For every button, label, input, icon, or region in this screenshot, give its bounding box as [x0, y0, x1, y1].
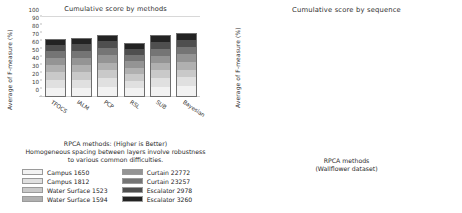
stacked-bar[interactable] — [124, 43, 145, 97]
bar-segment — [98, 87, 117, 96]
x-axis-tick-label: IALM — [76, 99, 90, 112]
bar-slot — [147, 17, 173, 97]
x-axis-tick-label: Bayesian — [182, 99, 206, 118]
legend-swatch — [122, 169, 143, 176]
bar-segment — [46, 72, 65, 80]
bar-segment — [125, 81, 144, 88]
legend-sequences: Campus 1650Campus 1812Water Surface 1523… — [22, 168, 192, 203]
x-label-slot: IALM — [68, 98, 94, 138]
legend-label: Curtain 23257 — [147, 178, 191, 185]
legend-item[interactable]: Escalator 3260 — [122, 195, 193, 203]
y-axis-tick-label: 20 — [32, 73, 39, 79]
bar-segment — [151, 70, 170, 78]
legend-label: Campus 1650 — [47, 169, 89, 176]
bar-segment — [125, 74, 144, 81]
bar-segment — [46, 80, 65, 88]
bar-segment — [177, 77, 196, 86]
x-label-slot: Bayesian — [174, 98, 200, 138]
legend-swatch — [22, 196, 43, 203]
bar-segment — [72, 88, 91, 97]
y-axis-tick-label: 100 — [29, 9, 39, 15]
caption-line-3: to various common difficulties. — [0, 156, 231, 164]
y-axis-label-sequence: Average of F-measure (%) — [234, 27, 241, 108]
bar-segment — [72, 58, 91, 65]
legend-label: Curtain 22772 — [147, 169, 191, 176]
stacked-bar[interactable] — [97, 35, 118, 97]
legend-label: Water Surface 1594 — [47, 196, 108, 203]
bar-slot — [95, 17, 121, 97]
plot-area-methods: 0102030405060708090100 — [42, 17, 200, 97]
bar-segment — [98, 55, 117, 63]
legend-item[interactable]: Curtain 22772 — [122, 168, 193, 176]
legend-column: Campus 1650Campus 1812Water Surface 1523… — [22, 168, 108, 203]
stacked-bar[interactable] — [150, 35, 171, 97]
chart-title-sequence: Cumulative score by sequence — [231, 6, 462, 14]
caption-line-1: RPCA methods — [231, 157, 462, 165]
stacked-bar[interactable] — [176, 33, 197, 97]
caption-line-1: RPCA methods: (Higher is Better) — [0, 140, 231, 148]
y-axis-tick-label: 30 — [32, 65, 39, 71]
bar-segment — [46, 51, 65, 58]
legend-item[interactable]: Escalator 2978 — [122, 186, 193, 194]
x-axis-labels-methods: TFOCSIALMPCPRSLSUBBayesian — [42, 98, 200, 138]
stacked-bar[interactable] — [71, 38, 92, 97]
y-axis-tick-label: 40 — [32, 57, 39, 63]
bar-segment — [151, 42, 170, 49]
legend-swatch — [22, 187, 43, 194]
bar-segment — [46, 65, 65, 72]
y-axis-tick-label: 80 — [32, 25, 39, 31]
bar-segment — [72, 80, 91, 88]
bar-segment — [72, 51, 91, 58]
bar-segment — [46, 88, 65, 96]
legend-item[interactable]: Campus 1650 — [22, 168, 108, 176]
bar-segment — [98, 78, 117, 87]
bar-segment — [151, 56, 170, 63]
legend-swatch — [122, 187, 143, 194]
bar-segment — [125, 88, 144, 96]
chart-panel-methods: Cumulative score by methods Average of F… — [0, 0, 231, 213]
chart-panel-sequence: Cumulative score by sequence Average of … — [231, 0, 462, 213]
x-axis-tick-label: TFOCS — [50, 99, 68, 114]
figure-root: Cumulative score by methods Average of F… — [0, 0, 462, 213]
legend-label: Escalator 2978 — [147, 187, 193, 194]
x-label-slot: PCP — [95, 98, 121, 138]
bar-segment — [72, 44, 91, 51]
y-axis-tick-label: 50 — [32, 49, 39, 55]
x-axis-tick-label: RSL — [129, 99, 141, 110]
y-axis-tick-label: 0 — [36, 89, 39, 95]
legend-label: Escalator 3260 — [147, 196, 193, 203]
bar-slot — [42, 17, 68, 97]
bar-slot — [68, 17, 94, 97]
stacked-bar[interactable] — [45, 39, 66, 97]
legend-item[interactable]: Campus 1812 — [22, 177, 108, 185]
bar-segment — [72, 72, 91, 80]
x-axis-tick-label: PCP — [103, 99, 115, 110]
y-axis-tick-label: 10 — [32, 81, 39, 87]
bar-segment — [125, 68, 144, 75]
x-label-slot: RSL — [121, 98, 147, 138]
y-axis-tick-label: 70 — [32, 33, 39, 39]
y-axis-tick-label: 90 — [32, 17, 39, 23]
legend-swatch — [122, 196, 143, 203]
bar-segment — [177, 70, 196, 78]
caption-line-2: Homogeneous spacing between layers invol… — [0, 148, 231, 156]
bar-segment — [177, 47, 196, 54]
bar-segment — [151, 49, 170, 56]
bar-segment — [177, 86, 196, 96]
bar-segment — [46, 58, 65, 65]
legend-item[interactable]: Water Surface 1594 — [22, 195, 108, 203]
legend-item[interactable]: Water Surface 1523 — [22, 186, 108, 194]
bar-segment — [72, 65, 91, 72]
bar-segment — [98, 70, 117, 78]
bar-segment — [98, 41, 117, 48]
legend-item[interactable]: Curtain 23257 — [122, 177, 193, 185]
bar-slot — [174, 17, 200, 97]
bar-segment — [151, 78, 170, 87]
y-axis-label-methods: Average of F-measure (%) — [6, 29, 13, 110]
bar-segment — [98, 63, 117, 71]
bar-segment — [177, 54, 196, 62]
bar-segment — [151, 63, 170, 71]
bar-segment — [177, 40, 196, 47]
bar-segment — [98, 48, 117, 55]
legend-label: Campus 1812 — [47, 178, 89, 185]
